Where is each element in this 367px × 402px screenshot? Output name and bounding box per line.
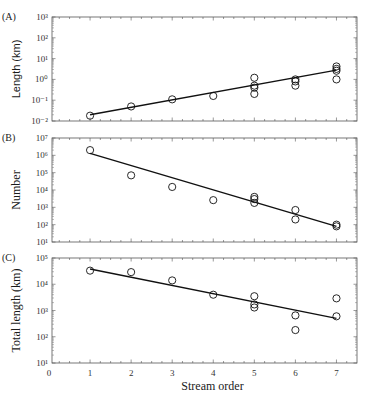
x-tick-label: 6 (293, 368, 298, 378)
y-tick-label: 10⁵ (36, 253, 48, 263)
data-point (128, 269, 135, 276)
data-point (333, 313, 340, 320)
y-tick-label: 10⁴ (36, 185, 48, 195)
y-tick-label: 10⁶ (36, 150, 48, 160)
x-tick-label: 0 (47, 368, 52, 378)
data-point (169, 277, 176, 284)
data-point (333, 295, 340, 302)
plot-frame (52, 138, 357, 242)
panel-a: 10⁻²10⁻¹10⁰10¹10²10³(A)Length (km) (2, 11, 357, 126)
y-tick-label: 10² (36, 33, 48, 43)
y-tick-label: 10³ (36, 12, 48, 22)
data-point (292, 312, 299, 319)
data-point (210, 197, 217, 204)
panel-label: (C) (2, 252, 15, 264)
data-point (292, 216, 299, 223)
data-point (251, 293, 258, 300)
data-point (251, 74, 258, 81)
x-tick-label: 1 (88, 368, 93, 378)
y-tick-label: 10³ (36, 202, 48, 212)
y-tick-label: 10¹ (36, 54, 48, 64)
x-axis-label: Stream order (181, 379, 243, 393)
panel-b: 10¹10²10³10⁴10⁵10⁶10⁷(B)Number (2, 132, 357, 247)
y-tick-label: 10⁻² (31, 116, 48, 126)
regression-line (90, 269, 336, 318)
panel-label: (A) (2, 11, 16, 23)
y-axis-label: Number (9, 170, 23, 209)
data-point (333, 76, 340, 83)
data-point (333, 221, 340, 228)
plot-frame (52, 258, 357, 363)
data-point (128, 172, 135, 179)
plot-frame (52, 17, 357, 121)
data-point (86, 267, 93, 274)
y-tick-label: 10⁵ (36, 168, 48, 178)
x-tick-label: 3 (170, 368, 175, 378)
data-point (292, 326, 299, 333)
stream-order-chart: 10⁻²10⁻¹10⁰10¹10²10³(A)Length (km)10¹10²… (0, 0, 367, 402)
x-tick-label: 5 (252, 368, 257, 378)
data-point (169, 183, 176, 190)
panel-label: (B) (2, 132, 15, 144)
x-tick-label: 7 (334, 368, 339, 378)
x-tick-label: 4 (211, 368, 216, 378)
y-tick-label: 10³ (36, 306, 48, 316)
data-point (210, 92, 217, 99)
y-tick-label: 10⁻¹ (31, 95, 48, 105)
y-tick-label: 10⁴ (36, 279, 48, 289)
y-axis-label: Length (km) (10, 40, 22, 99)
y-tick-label: 10⁷ (36, 133, 48, 143)
x-tick-label: 2 (129, 368, 134, 378)
y-axis-label: Total length (km) (9, 269, 23, 353)
y-tick-label: 10¹ (36, 358, 48, 368)
y-tick-label: 10¹ (36, 237, 48, 247)
data-point (86, 147, 93, 154)
y-tick-label: 10⁰ (35, 74, 48, 84)
data-point (292, 206, 299, 213)
y-tick-label: 10² (36, 332, 48, 342)
panel-c: 10¹10²10³10⁴10⁵(C)Total length (km)01234… (2, 252, 357, 393)
regression-line (90, 153, 336, 226)
y-tick-label: 10² (36, 220, 48, 230)
